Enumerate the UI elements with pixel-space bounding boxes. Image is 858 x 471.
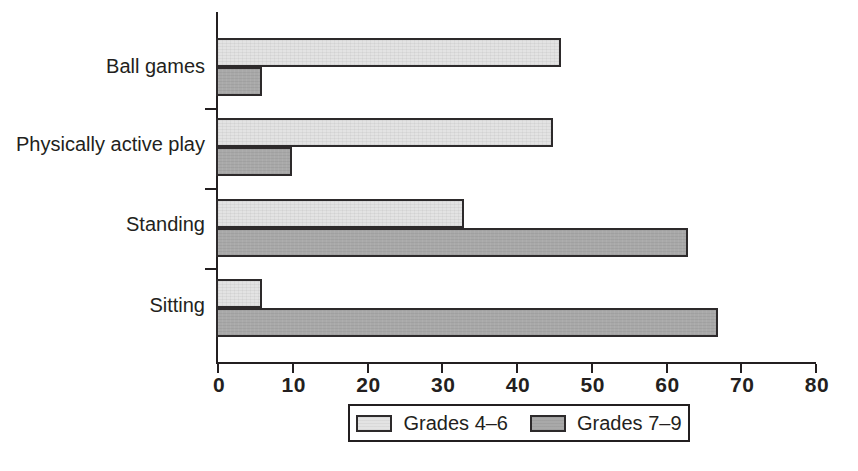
bar-physically-active-play-series-2	[216, 147, 292, 176]
y-axis-tick	[205, 188, 217, 190]
legend-label: Grades 4–6	[403, 412, 508, 435]
y-axis-label-physically-active-play: Physically active play	[0, 133, 205, 159]
legend-label: Grades 7–9	[577, 412, 682, 435]
legend: Grades 4–6 Grades 7–9	[348, 404, 690, 442]
x-axis-tick	[217, 364, 219, 373]
x-axis-tick-label: 20	[339, 373, 399, 397]
x-axis-tick-label: 10	[264, 373, 324, 397]
x-axis-tick-label: 50	[563, 373, 623, 397]
bar-chart: Ball games Physically active play Standi…	[0, 0, 858, 471]
y-axis-label-text: Standing	[5, 213, 205, 236]
x-axis-tick	[292, 364, 294, 373]
x-axis-tick	[367, 364, 369, 373]
x-axis-tick-label: 70	[712, 373, 772, 397]
x-axis-tick-label: 40	[488, 373, 548, 397]
bar-sitting-series-1	[216, 279, 262, 308]
y-axis-tick	[205, 108, 217, 110]
y-axis-tick	[205, 268, 217, 270]
legend-entry-grades-7-9[interactable]: Grades 7–9	[530, 412, 682, 435]
y-axis-label-text: Ball games	[5, 55, 205, 78]
y-axis-label-standing: Standing	[0, 213, 205, 239]
legend-swatch-icon	[356, 415, 392, 432]
bar-ball-games-series-1	[216, 38, 561, 67]
y-axis-label-ball-games: Ball games	[0, 55, 205, 81]
x-axis-tick-label: 60	[638, 373, 698, 397]
x-axis-tick-label: 80	[787, 373, 847, 397]
bar-standing-series-2	[216, 228, 688, 257]
x-axis-tick-label: 0	[189, 373, 249, 397]
x-axis-tick	[441, 364, 443, 373]
x-axis-tick	[666, 364, 668, 373]
x-axis-tick	[815, 364, 817, 373]
legend-swatch-icon	[530, 415, 566, 432]
bar-ball-games-series-2	[216, 67, 262, 96]
x-axis-tick-label: 30	[413, 373, 473, 397]
x-axis-tick	[591, 364, 593, 373]
legend-entry-grades-4-6[interactable]: Grades 4–6	[356, 412, 508, 435]
y-axis-label-sitting: Sitting	[0, 294, 205, 320]
y-axis-label-text: Sitting	[5, 294, 205, 317]
y-axis-label-text: Physically active play	[5, 133, 205, 156]
x-axis-tick	[740, 364, 742, 373]
bar-standing-series-1	[216, 199, 464, 228]
bar-sitting-series-2	[216, 308, 718, 337]
x-axis-tick	[516, 364, 518, 373]
bar-physically-active-play-series-1	[216, 118, 553, 147]
